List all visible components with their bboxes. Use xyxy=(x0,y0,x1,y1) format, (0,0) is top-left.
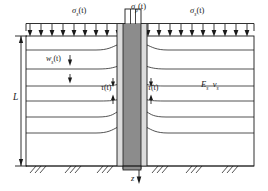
label-shear-stress-right: τ(t) xyxy=(148,84,158,92)
label-pile-length: L xyxy=(13,93,18,103)
pile-shaft xyxy=(117,24,147,170)
label-pile-stress: σp(t) xyxy=(131,2,146,13)
label-soil-stress-left: σs(t) xyxy=(72,6,86,17)
label-soil-stress-right: σs(t) xyxy=(190,6,204,17)
label-shear-stress-left: τ(t) xyxy=(101,84,111,92)
depth-axis-arrow xyxy=(137,170,142,184)
label-soil-settlement: ws(t) xyxy=(46,55,61,65)
label-depth-axis: z xyxy=(131,174,134,183)
label-soil-properties: Es vs xyxy=(201,80,219,91)
pile-soil-interaction-diagram xyxy=(0,0,268,191)
